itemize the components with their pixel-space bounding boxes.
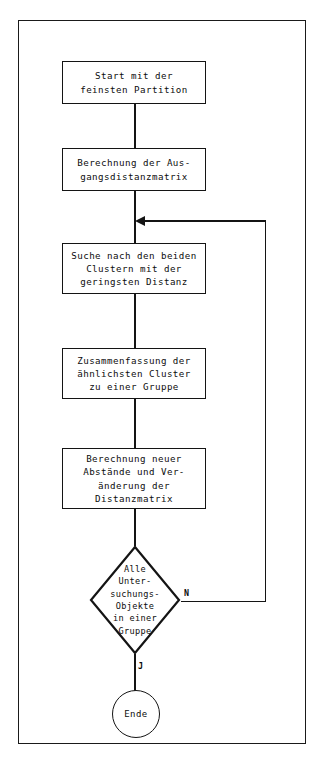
node-distance-matrix: Berechnung der Aus- gangsdistanzmatrix xyxy=(62,148,206,191)
node-start-line-1: Start mit der xyxy=(95,69,173,82)
node-start: Start mit der feinsten Partition xyxy=(62,61,206,104)
flowchart-figure: N J Start mit der feinsten Partition Ber… xyxy=(0,0,328,765)
node-end-terminal: Ende xyxy=(112,690,160,738)
connector-decision-no-horizontal xyxy=(181,601,266,603)
node-merge-clusters: Zusammenfassung der ähnlichsten Cluster … xyxy=(62,348,206,399)
node-decision-line-4: Objekte xyxy=(116,600,154,612)
node-merge-clusters-line-2: ähnlichsten Cluster xyxy=(77,367,191,380)
node-decision-all-in-one-group: Alle Unter- suchungs- Objekte in einer G… xyxy=(89,545,181,655)
node-recalc-distances-line-4: Distanzmatrix xyxy=(95,492,173,505)
node-decision-line-2: Unter- xyxy=(119,575,152,587)
connector-start-to-distance-matrix xyxy=(134,104,136,148)
connector-recalc-to-decision xyxy=(134,509,136,546)
node-merge-clusters-line-1: Zusammenfassung der xyxy=(77,354,191,367)
node-distance-matrix-line-2: gangsdistanzmatrix xyxy=(80,170,188,183)
node-recalc-distances-line-1: Berechnung neuer xyxy=(86,452,182,465)
arrowhead-loop-return-icon xyxy=(135,216,145,226)
node-decision-line-3: suchungs- xyxy=(110,588,159,600)
node-start-line-2: feinsten Partition xyxy=(80,83,188,96)
node-search-clusters-line-2: Clustern mit der xyxy=(86,262,182,275)
edge-label-no: N xyxy=(184,588,189,598)
node-end-label: Ende xyxy=(124,709,147,719)
edge-label-yes: J xyxy=(138,661,143,671)
node-decision-line-1: Alle xyxy=(124,563,146,575)
node-search-clusters: Suche nach den beiden Clustern mit der g… xyxy=(62,243,206,294)
connector-merge-to-recalc xyxy=(134,399,136,448)
connector-loop-return-horizontal xyxy=(145,220,266,222)
connector-search-to-merge xyxy=(134,294,136,348)
node-distance-matrix-line-1: Berechnung der Aus- xyxy=(77,156,191,169)
node-recalc-distances-line-3: änderung der xyxy=(98,479,170,492)
node-search-clusters-line-1: Suche nach den beiden xyxy=(71,249,197,262)
node-merge-clusters-line-3: zu einer Gruppe xyxy=(89,380,179,393)
node-decision-line-6: Gruppe xyxy=(119,625,152,637)
node-search-clusters-line-3: geringsten Distanz xyxy=(80,275,188,288)
node-decision-line-5: in einer xyxy=(113,612,157,624)
connector-decision-yes-to-end xyxy=(134,654,136,691)
node-recalc-distances-line-2: Abstände und Ver- xyxy=(83,465,185,478)
node-recalc-distances: Berechnung neuer Abstände und Ver- änder… xyxy=(62,448,206,509)
connector-loop-return-vertical xyxy=(265,220,267,602)
node-decision-text: Alle Unter- suchungs- Objekte in einer G… xyxy=(89,545,181,655)
